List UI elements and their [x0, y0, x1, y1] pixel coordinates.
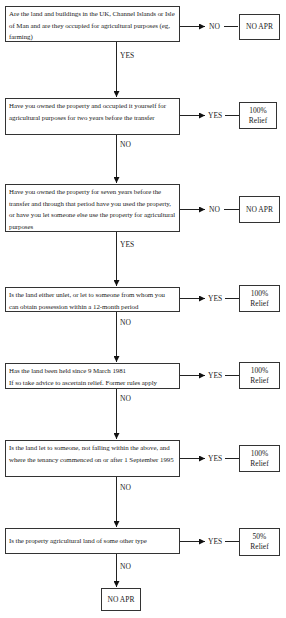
- question-text-1: Are the land and buildings in the UK, Ch…: [9, 10, 175, 40]
- down-label-3: YES: [120, 240, 134, 249]
- question-box-4: Is the land either unlet, or let to some…: [5, 287, 180, 312]
- result-text-7: 50%Relief: [250, 532, 268, 552]
- result-text-4: 100%Relief: [250, 289, 268, 309]
- down-label-5: NO: [120, 394, 131, 403]
- question-text-5a: Has the land been held since 9 March 198…: [9, 365, 176, 377]
- down-label-1: YES: [120, 51, 134, 60]
- question-text-7: Is the property agricultural land of som…: [9, 535, 147, 547]
- down-label-2: NO: [120, 140, 131, 149]
- question-text-4: Is the land either unlet, or let to some…: [9, 291, 165, 310]
- question-box-6: Is the land let to someone, not falling …: [5, 440, 180, 477]
- result-text-3: NO APR: [246, 205, 273, 215]
- branch-label-2: YES: [208, 111, 222, 120]
- result-text-1: NO APR: [246, 22, 273, 32]
- down-label-7: NO: [120, 562, 131, 571]
- result-box-5: 100%Relief: [239, 362, 280, 389]
- question-box-2: Have you owned the property and occupied…: [5, 98, 180, 135]
- down-label-4: NO: [120, 318, 131, 327]
- question-text-6: Is the land let to someone, not falling …: [9, 444, 174, 463]
- question-box-1: Are the land and buildings in the UK, Ch…: [5, 6, 180, 42]
- result-box-7: 50%Relief: [239, 528, 280, 556]
- question-box-5: Has the land been held since 9 March 198…: [5, 363, 180, 389]
- branch-label-3: NO: [209, 205, 220, 214]
- question-text-3: Have you owned the property for seven ye…: [9, 188, 175, 230]
- question-box-3: Have you owned the property for seven ye…: [5, 184, 180, 232]
- branch-label-5: YES: [208, 371, 222, 380]
- result-text-5: 100%Relief: [250, 366, 268, 386]
- result-box-1: NO APR: [239, 14, 280, 40]
- branch-label-1: NO: [209, 22, 220, 31]
- result-text-2: 100%Relief: [249, 106, 267, 126]
- question-text-5b: If so take advice to ascertain relief. F…: [9, 377, 176, 389]
- final-result-text: NO APR: [108, 595, 135, 605]
- branch-label-7: YES: [208, 537, 222, 546]
- final-result-box: NO APR: [101, 588, 141, 611]
- result-text-6: 100%Relief: [250, 449, 268, 469]
- result-box-3: NO APR: [239, 196, 280, 223]
- result-box-6: 100%Relief: [239, 445, 280, 472]
- question-box-7: Is the property agricultural land of som…: [5, 528, 180, 554]
- result-box-2: 100%Relief: [239, 102, 277, 129]
- branch-label-6: YES: [208, 454, 222, 463]
- down-label-6: NO: [120, 483, 131, 492]
- branch-label-4: YES: [208, 294, 222, 303]
- question-text-2: Have you owned the property and occupied…: [9, 102, 166, 121]
- result-box-4: 100%Relief: [239, 285, 280, 312]
